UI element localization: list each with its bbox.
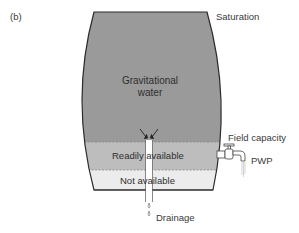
barrel-diagram xyxy=(0,0,299,233)
panel-label: (b) xyxy=(10,12,22,22)
tap-icon xyxy=(217,144,245,161)
drainage-label: Drainage xyxy=(156,213,195,223)
not-available-label: Not available xyxy=(120,176,175,186)
pwp-label: PWP xyxy=(251,156,273,166)
gravitational-water-line2: water xyxy=(110,87,190,99)
field-capacity-label: Field capacity xyxy=(228,133,286,143)
gravitational-water-label: Gravitational water xyxy=(110,75,190,99)
water-stream xyxy=(242,162,245,177)
gravitational-water-line1: Gravitational xyxy=(110,75,190,87)
water-droplet-icon xyxy=(148,203,150,216)
readily-available-label: Readily available xyxy=(112,151,184,161)
saturation-label: Saturation xyxy=(216,12,259,22)
